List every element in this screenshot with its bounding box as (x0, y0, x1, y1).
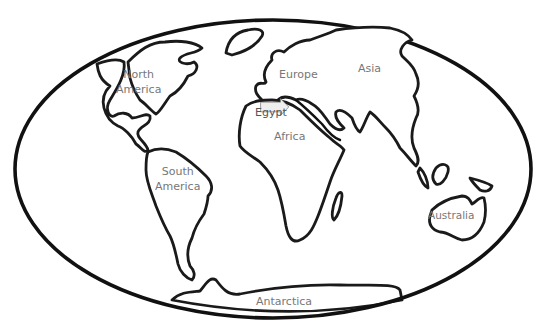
world-map: North America South America Europe Asia … (0, 0, 549, 329)
borneo-shape (433, 165, 448, 185)
label-south-america: South America (155, 164, 200, 194)
label-australia: Australia (428, 208, 474, 223)
label-asia: Asia (358, 61, 381, 76)
label-line: Australia (428, 208, 474, 223)
label-line: Asia (358, 61, 381, 76)
sumatra-shape (418, 168, 428, 188)
label-antarctica: Antarctica (256, 294, 312, 309)
label-line: North (116, 67, 161, 82)
label-north-america: North America (116, 67, 161, 97)
label-europe: Europe (279, 67, 318, 82)
greenland-shape (226, 29, 263, 55)
egypt-callout-label: Egypt (255, 106, 287, 119)
label-line: South (155, 164, 200, 179)
new-guinea-shape (470, 178, 492, 191)
madagascar-shape (332, 192, 342, 220)
label-africa: Africa (274, 129, 305, 144)
label-line: Antarctica (256, 294, 312, 309)
label-line: America (116, 82, 161, 97)
label-line: America (155, 179, 200, 194)
label-line: Europe (279, 67, 318, 82)
map-drawing (0, 0, 549, 329)
label-line: Africa (274, 129, 305, 144)
